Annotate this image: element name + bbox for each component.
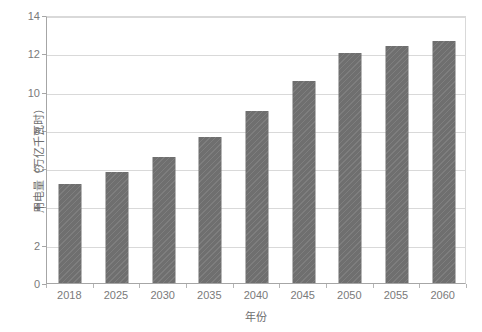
x-tick-mark bbox=[139, 284, 140, 288]
x-tick-mark bbox=[46, 284, 47, 288]
y-tick-mark-14 bbox=[42, 16, 46, 17]
y-tick-label-14: 14 bbox=[14, 11, 40, 22]
x-tick-label-2045: 2045 bbox=[279, 289, 326, 302]
x-tick-mark bbox=[186, 284, 187, 288]
x-tick-label-2050: 2050 bbox=[326, 289, 373, 302]
x-axis-title: 年份 bbox=[46, 308, 466, 324]
x-tick-label-2025: 2025 bbox=[93, 289, 140, 302]
x-tick-mark bbox=[419, 284, 420, 288]
x-tick-mark bbox=[466, 284, 467, 288]
y-axis-title: 用电量（万亿千瓦时） bbox=[30, 58, 46, 258]
x-tick-mark bbox=[233, 284, 234, 288]
x-tick-label-2030: 2030 bbox=[139, 289, 186, 302]
y-tick-label-0: 0 bbox=[14, 279, 40, 290]
y-axis: 02468101214 bbox=[0, 16, 482, 284]
y-tick-mark-12 bbox=[42, 54, 46, 55]
x-tick-mark bbox=[326, 284, 327, 288]
x-tick-mark bbox=[93, 284, 94, 288]
chart-figure: 02468101214 2018202520302035204020452050… bbox=[0, 0, 482, 332]
x-tick-label-2018: 2018 bbox=[46, 289, 93, 302]
x-tick-label-2060: 2060 bbox=[419, 289, 466, 302]
x-tick-mark bbox=[279, 284, 280, 288]
x-tick-label-2055: 2055 bbox=[373, 289, 420, 302]
x-tick-label-2035: 2035 bbox=[186, 289, 233, 302]
x-axis: 201820252030203520402045205020552060 bbox=[46, 289, 466, 305]
x-tick-label-2040: 2040 bbox=[233, 289, 280, 302]
x-tick-mark bbox=[373, 284, 374, 288]
